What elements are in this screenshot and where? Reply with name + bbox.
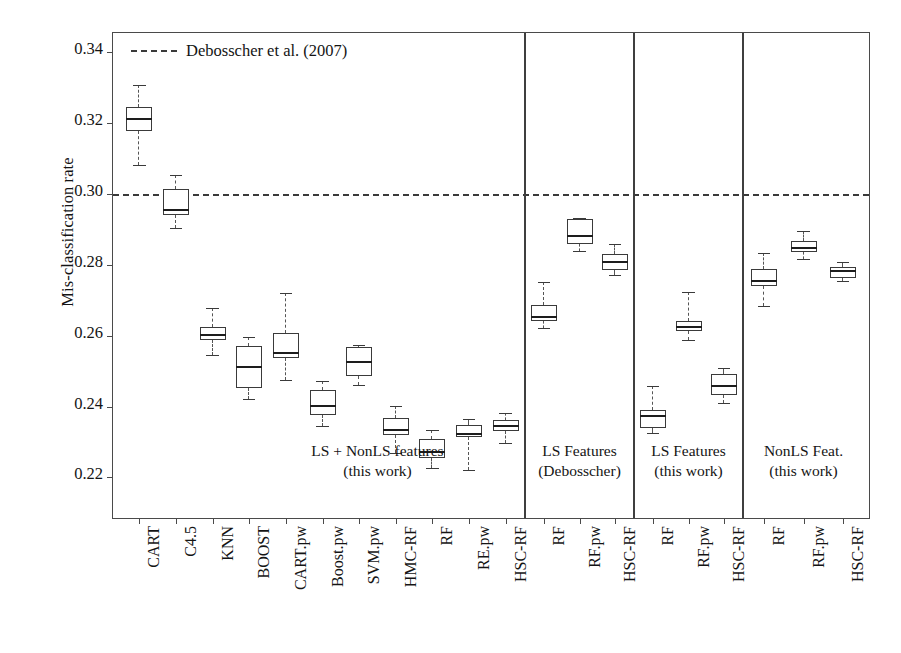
median-line — [456, 433, 482, 435]
median-line — [751, 280, 777, 282]
whisker-lower — [688, 331, 689, 340]
whisker-cap-upper — [609, 244, 621, 245]
group-annotation-line2: (this work) — [635, 461, 742, 481]
group-annotation-1: LS Features(Debosscher) — [526, 441, 633, 481]
x-axis-label-rf: RF — [770, 526, 788, 546]
group-annotation-line1: LS + NonLS features — [231, 441, 524, 461]
legend-dashed-line-icon — [131, 50, 177, 52]
median-line — [126, 118, 152, 120]
reference-line-debosscher — [113, 194, 869, 196]
whisker-upper — [688, 292, 689, 321]
median-line — [200, 334, 226, 336]
whisker-cap-upper — [682, 292, 694, 293]
whisker-lower — [723, 395, 724, 404]
whisker-cap-lower — [718, 403, 730, 404]
median-line — [163, 209, 189, 211]
whisker-cap-lower — [206, 355, 218, 356]
x-axis-label-cart: CART — [145, 526, 163, 568]
whisker-cap-lower — [609, 275, 621, 276]
group-annotation-line1: LS Features — [526, 441, 633, 461]
whisker-cap-upper — [170, 175, 182, 176]
whisker-cap-upper — [797, 231, 809, 232]
group-annotation-2: LS Features(this work) — [635, 441, 742, 481]
whisker-cap-lower — [682, 340, 694, 341]
x-axis-label-rf-pw: RF.pw — [695, 526, 713, 568]
whisker-cap-lower — [243, 399, 255, 400]
whisker-lower — [285, 358, 286, 380]
whisker-lower — [579, 244, 580, 251]
box-iqr — [830, 267, 856, 278]
whisker-cap-lower — [316, 426, 328, 427]
whisker-cap-upper — [718, 368, 730, 369]
box-iqr — [640, 410, 666, 428]
group-annotation-0: LS + NonLS features(this work) — [231, 441, 524, 481]
box-iqr — [383, 418, 409, 435]
y-axis-tick-mark — [107, 123, 113, 124]
x-axis-tick-mark — [359, 518, 360, 524]
whisker-cap-upper — [463, 419, 475, 420]
y-axis-tick-label: 0.28 — [51, 254, 103, 271]
box-iqr — [531, 305, 557, 321]
x-axis-tick-mark — [843, 518, 844, 524]
whisker-cap-upper — [280, 293, 292, 294]
whisker-upper — [505, 413, 506, 420]
x-axis-label-rf: RF — [659, 526, 677, 546]
median-line — [531, 316, 557, 318]
group-annotation-line2: (this work) — [231, 461, 524, 481]
whisker-cap-upper — [316, 381, 328, 382]
whisker-upper — [175, 175, 176, 189]
group-annotation-line2: (Debosscher) — [526, 461, 633, 481]
y-axis-tick-mark — [107, 477, 113, 478]
y-axis-tick-mark — [107, 336, 113, 337]
whisker-lower — [358, 376, 359, 386]
whisker-cap-upper — [538, 282, 550, 283]
whisker-cap-lower — [353, 385, 365, 386]
whisker-cap-lower — [170, 228, 182, 229]
legend: Debosscher et al. (2007) — [131, 41, 347, 61]
x-axis-label-c4-5: C4.5 — [182, 526, 200, 557]
whisker-upper — [652, 386, 653, 410]
x-axis-tick-mark — [764, 518, 765, 524]
legend-label-debosscher: Debosscher et al. (2007) — [186, 41, 347, 61]
median-line — [676, 326, 702, 328]
x-axis-tick-mark — [176, 518, 177, 524]
whisker-lower — [763, 286, 764, 306]
whisker-lower — [322, 415, 323, 427]
x-axis-label-hmc-rf: HMC-RF — [402, 526, 420, 587]
x-axis-label-knn: KNN — [219, 526, 237, 561]
x-axis-label-boost-pw: Boost.pw — [329, 526, 347, 587]
x-axis-label-cart-pw: CART.pw — [292, 526, 310, 590]
whisker-lower — [248, 388, 249, 400]
whisker-upper — [138, 85, 139, 108]
whisker-upper — [543, 282, 544, 305]
y-axis-tick-mark — [107, 407, 113, 408]
whisker-lower — [212, 340, 213, 355]
x-axis-tick-mark — [286, 518, 287, 524]
x-axis-label-boost: BOOST — [255, 526, 273, 578]
x-axis-tick-mark — [544, 518, 545, 524]
x-axis-label-rf: RF — [438, 526, 456, 546]
x-axis-tick-mark — [396, 518, 397, 524]
x-axis-label-svm-pw: SVM.pw — [365, 526, 383, 584]
x-axis-label-hsc-rf: HSC-RF — [849, 526, 867, 582]
whisker-lower — [138, 131, 139, 165]
y-axis-tick-label: 0.26 — [51, 325, 103, 342]
median-line — [346, 361, 372, 363]
whisker-cap-lower — [280, 380, 292, 381]
whisker-cap-upper — [758, 253, 770, 254]
whisker-upper — [614, 244, 615, 254]
whisker-cap-lower — [837, 281, 849, 282]
median-line — [830, 270, 856, 272]
group-annotation-line1: NonLS Feat. — [744, 441, 863, 461]
x-axis-tick-mark — [323, 518, 324, 524]
x-axis-tick-mark — [249, 518, 250, 524]
y-axis-tick-label: 0.24 — [51, 396, 103, 413]
box-iqr — [567, 219, 593, 243]
group-annotation-line1: LS Features — [635, 441, 742, 461]
whisker-upper — [431, 430, 432, 440]
median-line — [567, 235, 593, 237]
x-axis-label-hsc-rf: HSC-RF — [621, 526, 639, 582]
y-axis-tick-label: 0.30 — [51, 183, 103, 200]
whisker-cap-lower — [538, 328, 550, 329]
whisker-cap-upper — [647, 386, 659, 387]
